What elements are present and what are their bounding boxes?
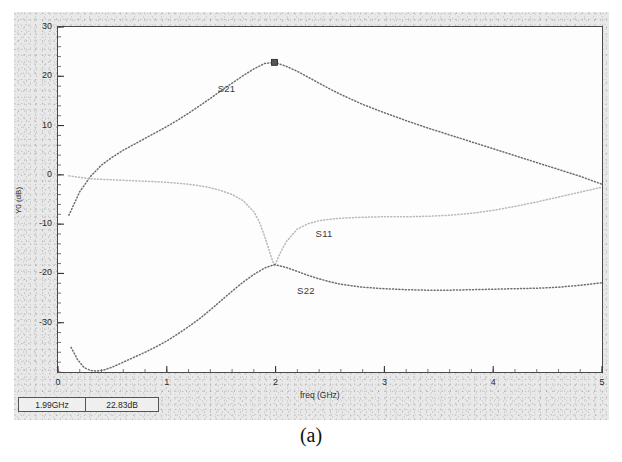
x-tick-label: 3 (374, 377, 394, 387)
annotation-s11: S11 (316, 228, 333, 239)
y-axis-label: Y0 (dB) (14, 171, 23, 231)
curve-s11 (69, 176, 602, 266)
y-tick-label: 0 (24, 169, 52, 179)
y-tick-label: -20 (24, 267, 52, 277)
annotation-s21: S21 (218, 83, 236, 94)
x-tick-label: 5 (592, 377, 612, 387)
marker-square-icon[interactable] (272, 59, 278, 65)
curve-s22 (71, 265, 602, 371)
y-tick-label: 20 (24, 70, 52, 80)
x-tick-label: 0 (48, 377, 68, 387)
y-tick-label: 10 (24, 120, 52, 130)
curve-s21 (69, 62, 602, 215)
y-tick-label: -10 (24, 218, 52, 228)
figure-page: 0123453020100-10-20-30 Y0 (dB) freq (GHz… (0, 0, 622, 462)
x-axis-label: freq (GHz) (300, 390, 340, 400)
x-tick-label: 4 (483, 377, 503, 387)
marker-magnitude-value[interactable]: 22.83dB (86, 398, 158, 411)
y-tick-label: -30 (24, 317, 52, 327)
marker-frequency-value[interactable]: 1.99GHz (19, 398, 86, 411)
series-curves (69, 62, 602, 371)
annotation-s22: S22 (297, 285, 315, 296)
marker-readout-box[interactable]: 1.99GHz 22.83dB (18, 397, 159, 412)
x-tick-label: 1 (157, 377, 177, 387)
peak-marker (272, 59, 278, 65)
figure-caption: (a) (0, 424, 622, 447)
y-tick-label: 30 (24, 21, 52, 31)
axis-ticks (58, 27, 602, 372)
x-tick-label: 2 (266, 377, 286, 387)
